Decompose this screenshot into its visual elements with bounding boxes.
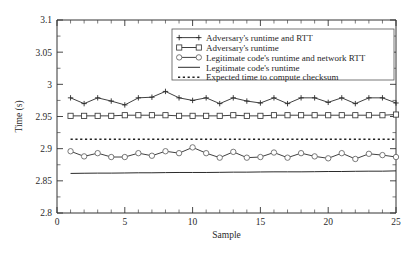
data-marker-square (258, 113, 263, 118)
data-marker-plus (217, 101, 222, 106)
data-marker-circle (136, 150, 141, 155)
data-marker-square (231, 113, 236, 118)
data-marker-square (204, 113, 209, 118)
data-marker-plus (366, 95, 371, 100)
data-marker-circle (196, 55, 201, 60)
series-3 (71, 171, 396, 174)
data-marker-circle (68, 149, 73, 154)
data-marker-square (326, 113, 331, 118)
y-tick-label: 2.85 (35, 176, 52, 186)
data-marker-circle (366, 151, 371, 156)
data-marker-square (271, 113, 276, 118)
data-marker-circle (190, 145, 195, 150)
x-tick-label: 15 (256, 217, 266, 227)
legend-label: Expected time to compute checksum (206, 72, 338, 82)
data-marker-plus (109, 98, 114, 103)
series-path (71, 171, 396, 174)
y-tick-label: 3.05 (35, 48, 52, 58)
data-marker-circle (339, 150, 344, 155)
y-tick-label: 2.9 (40, 144, 52, 154)
data-marker-square (380, 113, 385, 118)
data-marker-square (285, 113, 290, 118)
data-marker-square (353, 113, 358, 118)
data-marker-plus (339, 95, 344, 100)
x-tick-label: 0 (55, 217, 60, 227)
data-marker-square (122, 113, 127, 118)
y-axis-title: Time (s) (14, 100, 25, 132)
data-marker-plus (380, 95, 385, 100)
data-marker-circle (380, 152, 385, 157)
data-marker-circle (312, 154, 317, 159)
data-marker-square (298, 113, 303, 118)
data-marker-plus (298, 95, 303, 100)
data-marker-circle (271, 150, 276, 155)
data-marker-plus (312, 95, 317, 100)
data-marker-square (393, 112, 398, 117)
data-marker-circle (285, 155, 290, 160)
data-marker-square (312, 113, 317, 118)
y-tick-label: 3 (47, 80, 52, 90)
data-marker-circle (109, 154, 114, 159)
data-marker-plus (136, 95, 141, 100)
data-marker-plus (353, 101, 358, 106)
data-marker-circle (176, 150, 181, 155)
data-marker-circle (244, 155, 249, 160)
x-tick-label: 10 (188, 217, 198, 227)
data-marker-circle (258, 154, 263, 159)
y-tick-label: 3.1 (40, 15, 52, 25)
legend-label: Legitimate code's runtime and network RT… (206, 53, 366, 63)
data-marker-square (149, 113, 154, 118)
data-marker-square (177, 45, 182, 50)
data-marker-plus (244, 98, 249, 103)
data-marker-circle (95, 150, 100, 155)
data-marker-plus (122, 102, 127, 107)
data-marker-circle (163, 149, 168, 154)
data-marker-circle (177, 55, 182, 60)
data-marker-circle (326, 156, 331, 161)
data-marker-plus (285, 101, 290, 106)
data-marker-circle (217, 155, 222, 160)
data-marker-circle (231, 149, 236, 154)
series-1 (68, 112, 399, 118)
data-marker-circle (203, 150, 208, 155)
data-marker-square (136, 113, 141, 118)
data-marker-square (366, 113, 371, 118)
data-marker-plus (149, 95, 154, 100)
x-axis-title: Sample (212, 230, 241, 240)
data-marker-square (190, 113, 195, 118)
data-marker-plus (393, 100, 398, 105)
data-marker-square (244, 113, 249, 118)
data-marker-plus (203, 95, 208, 100)
legend: Adversary's runtime and RTTAdversary's r… (172, 29, 394, 82)
data-marker-circle (81, 154, 86, 159)
y-tick-label: 2.95 (35, 112, 52, 122)
y-tick-label: 2.8 (40, 208, 52, 218)
data-marker-plus (95, 95, 100, 100)
data-marker-square (339, 113, 344, 118)
x-tick-label: 20 (323, 217, 333, 227)
data-marker-circle (298, 150, 303, 155)
data-marker-square (68, 113, 73, 118)
data-marker-square (163, 113, 168, 118)
data-marker-square (196, 45, 201, 50)
data-marker-square (82, 113, 87, 118)
data-marker-plus (81, 101, 86, 106)
series-2 (68, 145, 399, 162)
legend-label: Adversary's runtime (206, 43, 279, 53)
data-marker-circle (149, 153, 154, 158)
data-marker-circle (393, 154, 398, 159)
data-marker-plus (176, 95, 181, 100)
chart-svg: 2.82.852.92.9533.053.10510152025SampleTi… (0, 0, 420, 253)
data-marker-square (95, 113, 100, 118)
data-marker-plus (271, 95, 276, 100)
legend-label: Adversary's runtime and RTT (206, 33, 313, 43)
data-marker-plus (190, 98, 195, 103)
series-0 (68, 89, 399, 108)
legend-label: Legitimate code's runtime (206, 63, 300, 73)
data-marker-circle (353, 156, 358, 161)
data-marker-square (176, 113, 181, 118)
x-tick-label: 25 (391, 217, 401, 227)
data-marker-circle (122, 154, 127, 159)
data-marker-square (109, 113, 114, 118)
data-marker-plus (326, 100, 331, 105)
